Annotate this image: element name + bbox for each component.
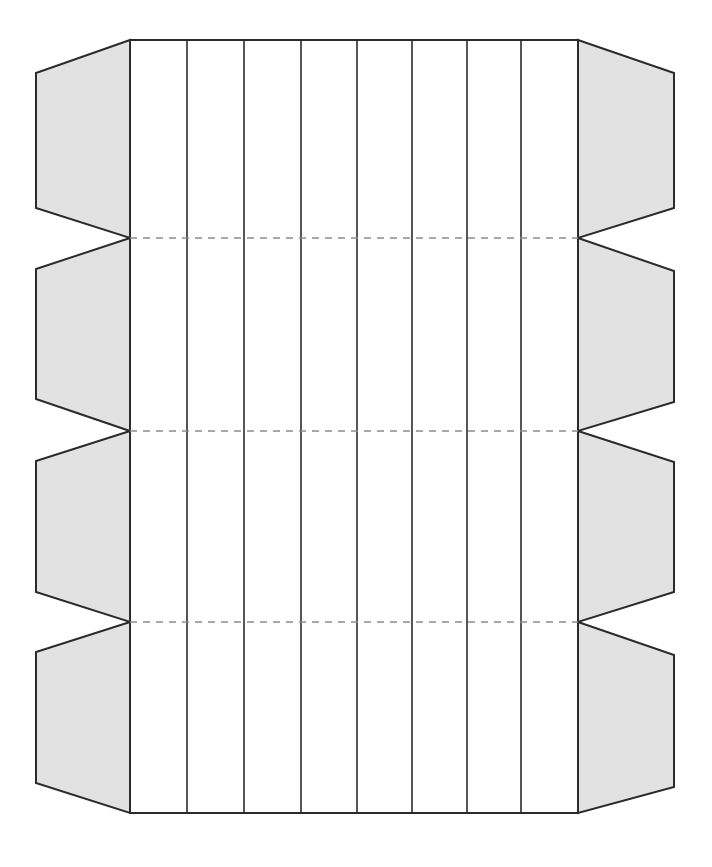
left-flap-4[interactable] [36,622,130,813]
left-flap-2[interactable] [36,238,130,431]
left-flap-3[interactable] [36,431,130,622]
main-body-panel[interactable] [130,40,578,813]
right-flap-1[interactable] [578,40,674,238]
left-flap-group [36,40,130,813]
left-flap-1[interactable] [36,40,130,238]
right-flap-2[interactable] [578,238,674,431]
right-flap-4[interactable] [578,622,674,813]
dieline-svg [0,0,712,867]
right-flap-group [578,40,674,813]
dieline-canvas [0,0,712,867]
right-flap-3[interactable] [578,431,674,622]
